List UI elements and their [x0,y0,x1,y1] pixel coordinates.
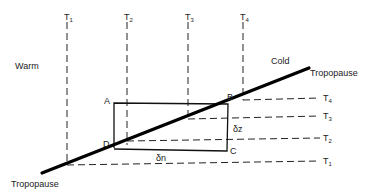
cold-label: Cold [271,56,290,66]
isotherm-horizontal-t3 [188,116,320,119]
label-t3-right: T3 [323,111,333,122]
label-t2-top: T2 [124,12,134,23]
label-t3-top: T3 [185,12,195,23]
isotherm-horizontal-t2 [127,138,320,141]
label-t4-right: T4 [323,93,333,104]
label-t4-top: T4 [240,12,250,23]
corner-a-label: A [104,96,110,106]
label-t1-right: T1 [323,156,333,167]
delta-z-label: δz [233,124,243,134]
box-outline [114,103,228,151]
delta-n-label: δn [156,153,166,163]
tropopause-label-upper: Tropopause [310,68,358,78]
horizontal-isotherms [67,98,320,165]
tropopause-label-lower: Tropopause [11,179,59,189]
corner-b-label: B [227,92,233,102]
label-t2-right: T2 [323,133,333,144]
box-abcd [114,103,228,151]
isotherm-horizontal-t4 [243,98,320,100]
warm-label: Warm [15,61,39,71]
corner-d-label: D [103,139,110,149]
tropopause-line [42,68,309,173]
tropopause-diagram: T1 T2 T3 T4 T4 T3 T2 T1 Warm Cold Tropop… [0,0,375,193]
vertical-isotherms [67,22,243,165]
label-t1-top: T1 [64,12,74,23]
isotherm-horizontal-t1 [67,161,320,165]
corner-c-label: C [230,146,237,156]
